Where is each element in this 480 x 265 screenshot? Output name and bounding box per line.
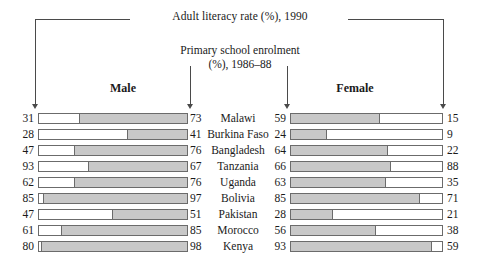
- literacy-arrow-right-icon: [440, 104, 446, 109]
- chart-row: 8597Bolivia8571: [0, 191, 480, 207]
- female-literacy-value: 9: [447, 128, 475, 141]
- female-enrolment-value: 24: [264, 128, 286, 141]
- female-enrolment-value: 64: [264, 144, 286, 157]
- chart-rows: 3173Malawi59152841Burkina Faso2494776Ban…: [0, 111, 480, 255]
- chart-row: 6185Morocco5638: [0, 223, 480, 239]
- country-label: Bangladesh: [204, 144, 272, 157]
- enrolment-arrow-left-icon: [187, 104, 193, 109]
- country-label: Morocco: [212, 224, 264, 237]
- male-bar: [38, 241, 188, 252]
- chart-row: 3173Malawi5915: [0, 111, 480, 127]
- male-literacy-value: 28: [4, 128, 34, 141]
- female-bar: [290, 225, 443, 236]
- male-enrolment-fill: [88, 162, 189, 171]
- country-label: Uganda: [212, 176, 264, 189]
- female-enrolment-value: 56: [264, 224, 286, 237]
- chart-title: Adult literacy rate (%), 1990: [0, 10, 480, 22]
- male-bar: [38, 177, 188, 188]
- female-enrolment-fill: [290, 178, 386, 187]
- male-bar: [38, 193, 188, 204]
- female-enrolment-value: 28: [264, 208, 286, 221]
- column-header-female: Female: [300, 81, 410, 96]
- female-literacy-value: 15: [447, 112, 475, 125]
- male-enrolment-value: 73: [190, 112, 212, 125]
- male-bar: [38, 113, 188, 124]
- male-bar: [38, 161, 188, 172]
- male-enrolment-fill: [41, 242, 188, 251]
- male-enrolment-fill: [74, 146, 188, 155]
- male-literacy-value: 62: [4, 176, 34, 189]
- male-bar: [38, 225, 188, 236]
- female-bar: [290, 209, 443, 220]
- male-literacy-value: 85: [4, 192, 34, 205]
- chart-row: 4751Pakistan2821: [0, 207, 480, 223]
- male-enrolment-value: 97: [190, 192, 212, 205]
- chart-row: 6276Uganda6335: [0, 175, 480, 191]
- female-bar: [290, 129, 443, 140]
- female-literacy-value: 88: [447, 160, 475, 173]
- male-enrolment-fill: [127, 130, 189, 139]
- female-literacy-value: 59: [447, 240, 475, 253]
- male-literacy-value: 47: [4, 144, 34, 157]
- male-bar: [38, 129, 188, 140]
- female-enrolment-value: 59: [264, 112, 286, 125]
- female-literacy-value: 38: [447, 224, 475, 237]
- country-label: Tanzania: [212, 160, 264, 173]
- chart-row: 8098Kenya9359: [0, 239, 480, 255]
- female-enrolment-fill: [290, 194, 420, 203]
- literacy-arrow-left-icon: [32, 104, 38, 109]
- chart-row: 4776Bangladesh6422: [0, 143, 480, 159]
- female-enrolment-value: 93: [264, 240, 286, 253]
- male-enrolment-value: 67: [190, 160, 212, 173]
- female-enrolment-fill: [290, 162, 391, 171]
- female-enrolment-value: 63: [264, 176, 286, 189]
- male-literacy-value: 47: [4, 208, 34, 221]
- male-bar: [38, 145, 188, 156]
- female-enrolment-fill: [290, 210, 333, 219]
- female-literacy-value: 21: [447, 208, 475, 221]
- column-header-male: Male: [68, 81, 178, 96]
- country-label: Bolivia: [212, 192, 264, 205]
- male-enrolment-value: 51: [190, 208, 212, 221]
- female-bar: [290, 161, 443, 172]
- female-literacy-value: 22: [447, 144, 475, 157]
- male-enrolment-value: 76: [190, 176, 212, 189]
- country-label: Kenya: [212, 240, 264, 253]
- male-enrolment-fill: [61, 226, 189, 235]
- male-enrolment-fill: [43, 194, 189, 203]
- figure-root: Adult literacy rate (%), 1990 Primary sc…: [0, 0, 480, 265]
- male-literacy-value: 61: [4, 224, 34, 237]
- enrolment-arrow-right-icon: [284, 104, 290, 109]
- female-enrolment-fill: [290, 226, 376, 235]
- female-enrolment-fill: [290, 130, 327, 139]
- male-bar: [38, 209, 188, 220]
- chart-subtitle-line1: Primary school enrolment: [180, 44, 299, 56]
- female-enrolment-fill: [290, 114, 380, 123]
- female-literacy-value: 71: [447, 192, 475, 205]
- male-enrolment-value: 85: [190, 224, 212, 237]
- female-bar: [290, 177, 443, 188]
- male-enrolment-fill: [74, 178, 188, 187]
- female-enrolment-value: 85: [264, 192, 286, 205]
- chart-subtitle-line2: (%), 1986–88: [0, 57, 480, 71]
- female-enrolment-fill: [290, 146, 388, 155]
- female-enrolment-fill: [290, 242, 432, 251]
- male-enrolment-fill: [79, 114, 189, 123]
- female-enrolment-value: 66: [264, 160, 286, 173]
- country-label: Malawi: [212, 112, 264, 125]
- country-label: Pakistan: [212, 208, 264, 221]
- male-enrolment-fill: [112, 210, 189, 219]
- female-literacy-value: 35: [447, 176, 475, 189]
- female-bar: [290, 145, 443, 156]
- female-bar: [290, 241, 443, 252]
- male-enrolment-value: 98: [190, 240, 212, 253]
- chart-subtitle: Primary school enrolment (%), 1986–88: [0, 43, 480, 71]
- male-literacy-value: 93: [4, 160, 34, 173]
- female-bar: [290, 113, 443, 124]
- enrolment-bracket-right-stem: [287, 66, 288, 105]
- enrolment-bracket-left-stem: [190, 66, 191, 105]
- chart-row: 9367Tanzania6688: [0, 159, 480, 175]
- chart-row: 2841Burkina Faso249: [0, 127, 480, 143]
- male-literacy-value: 31: [4, 112, 34, 125]
- female-bar: [290, 193, 443, 204]
